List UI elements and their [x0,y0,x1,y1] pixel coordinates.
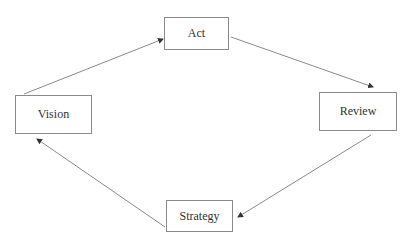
node-strategy: Strategy [166,200,233,232]
edge-vision-to-act [24,39,163,94]
edge-strategy-to-vision [37,139,165,227]
node-review-label: Review [340,104,377,119]
node-vision: Vision [15,95,92,134]
cycle-diagram: Act Review Strategy Vision [0,0,409,249]
node-act: Act [164,17,229,50]
edge-act-to-review [231,37,373,87]
node-act-label: Act [188,26,205,41]
edge-review-to-strategy [238,135,371,217]
node-vision-label: Vision [38,107,69,122]
node-review: Review [319,92,397,131]
node-strategy-label: Strategy [180,209,220,224]
